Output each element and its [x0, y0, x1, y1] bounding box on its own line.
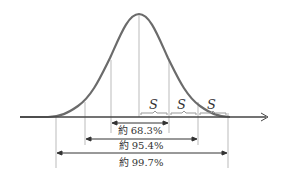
range-label-1sigma: 約 68.3%: [118, 124, 163, 136]
sigma-label-2: S: [177, 97, 186, 112]
normal-distribution-diagram: S S S 約 68.3% 約 95.4% 約 99.7%: [0, 0, 287, 181]
range-label-3sigma: 約 99.7%: [119, 156, 164, 168]
bell-curve: [20, 14, 230, 117]
sigma-label-1: S: [149, 97, 158, 112]
range-label-2sigma: 約 95.4%: [119, 139, 164, 151]
sigma-label-3: S: [207, 97, 216, 112]
